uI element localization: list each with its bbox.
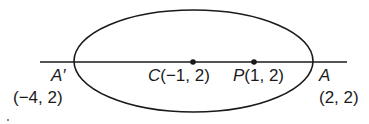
label-p-name: P: [233, 66, 244, 85]
label-a-prime-name: A′: [51, 67, 66, 84]
label-c: C(−1, 2): [148, 67, 210, 84]
label-c-name: C: [148, 66, 160, 85]
label-c-coords: (−1, 2): [160, 66, 210, 85]
point-p-dot: [251, 59, 257, 65]
label-a-name: A: [319, 67, 330, 84]
stray-mark: [7, 119, 9, 121]
label-p: P(1, 2): [233, 67, 284, 84]
ellipse-diagram: A′ (−4, 2) C(−1, 2) P(1, 2) A (2, 2): [0, 0, 369, 124]
point-c-dot: [190, 59, 196, 65]
label-p-coords: (1, 2): [244, 66, 284, 85]
label-a-coords: (2, 2): [319, 89, 359, 106]
label-a-prime-coords: (−4, 2): [13, 89, 63, 106]
